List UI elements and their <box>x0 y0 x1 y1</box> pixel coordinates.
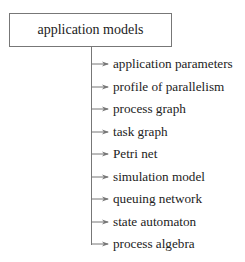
child-node-label: task graph <box>113 124 168 140</box>
arrow-right-icon <box>91 218 111 226</box>
arrow-right-icon <box>91 105 111 113</box>
child-node: process algebra <box>91 244 245 260</box>
arrow-right-icon <box>91 240 111 248</box>
child-node-label: state automaton <box>113 214 196 230</box>
child-node-label: application parameters <box>113 56 233 72</box>
child-node-label: Petri net <box>113 146 157 162</box>
arrow-right-icon <box>91 173 111 181</box>
child-node-label: profile of parallelism <box>113 79 224 95</box>
root-node-application-models: application models <box>9 13 172 47</box>
arrow-right-icon <box>91 60 111 68</box>
child-node-label: process graph <box>113 101 186 117</box>
arrow-right-icon <box>91 150 111 158</box>
arrow-right-icon <box>91 83 111 91</box>
child-node-label: simulation model <box>113 169 205 185</box>
arrow-right-icon <box>91 128 111 136</box>
child-node-label: process algebra <box>113 236 195 252</box>
root-node-label: application models <box>37 22 143 38</box>
child-node-label: queuing network <box>113 191 202 207</box>
arrow-right-icon <box>91 195 111 203</box>
